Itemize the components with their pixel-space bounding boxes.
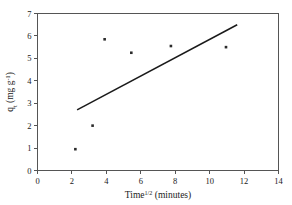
- plot-frame: [38, 14, 279, 171]
- x-tick-label: 4: [104, 176, 109, 186]
- trend-line: [77, 25, 237, 110]
- x-tick-label: 14: [274, 176, 283, 186]
- y-axis-title: qt (mg g-1): [4, 72, 18, 112]
- data-point: [170, 45, 173, 48]
- y-tick-label: 0: [27, 166, 31, 176]
- data-point: [130, 51, 133, 54]
- y-tick-label: 3: [27, 98, 31, 108]
- x-tick-label: 6: [139, 176, 143, 186]
- y-tick-label: 2: [27, 121, 31, 131]
- data-point: [74, 148, 77, 151]
- x-tick-label: 2: [70, 176, 74, 186]
- y-tick-label: 7: [27, 9, 31, 19]
- x-tick-label: 8: [173, 176, 177, 186]
- x-axis-title: Time1/2 (minutes): [125, 188, 191, 201]
- x-tick-label: 0: [35, 176, 39, 186]
- y-tick-label: 1: [27, 143, 31, 153]
- scatter-plot: 0246810121401234567Time1/2 (minutes)qt (…: [0, 0, 292, 205]
- data-point: [225, 46, 228, 49]
- y-tick-label: 5: [27, 53, 31, 63]
- x-tick-label: 12: [240, 176, 249, 186]
- data-point: [103, 38, 106, 41]
- x-tick-label: 10: [205, 176, 214, 186]
- data-point: [91, 124, 94, 127]
- y-tick-label: 4: [27, 76, 32, 86]
- y-tick-label: 6: [27, 31, 31, 41]
- chart-figure: 0246810121401234567Time1/2 (minutes)qt (…: [0, 0, 292, 205]
